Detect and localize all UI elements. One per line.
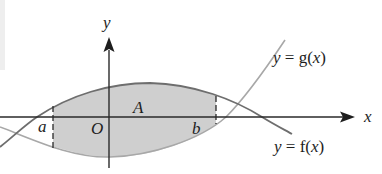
y-axis-label: y bbox=[103, 14, 111, 31]
region-label-A: A bbox=[133, 99, 143, 116]
x-axis-label: x bbox=[364, 108, 372, 125]
bound-label-b: b bbox=[192, 120, 201, 137]
curve-g-func: g bbox=[299, 48, 308, 67]
bound-label-a: a bbox=[38, 118, 47, 135]
curve-f-eq: = bbox=[282, 137, 300, 156]
curve-f-label: y = f(x) bbox=[274, 138, 324, 155]
origin-label: O bbox=[91, 120, 103, 137]
curve-f-arg: (x) bbox=[305, 137, 324, 156]
diagram-svg bbox=[0, 0, 382, 174]
y-axis-arrow-icon bbox=[104, 37, 115, 52]
figure-area-between-curves: y x O a b A y = g(x) y = f(x) bbox=[0, 0, 382, 174]
curve-g-arg: (x) bbox=[307, 48, 326, 67]
curve-g-eq: = bbox=[281, 48, 299, 67]
curve-g-label: y = g(x) bbox=[273, 49, 326, 66]
